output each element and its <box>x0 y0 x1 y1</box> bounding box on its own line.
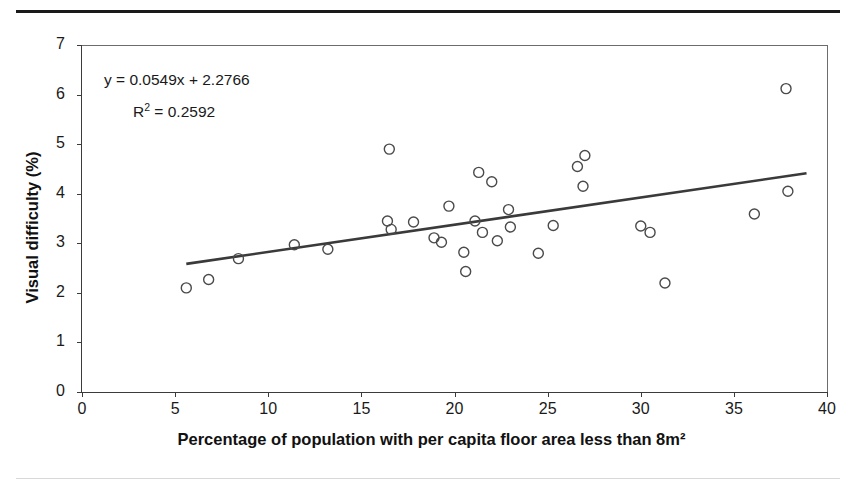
scatter-point <box>572 161 582 171</box>
figure-container: 01234567 0510152025303540 Visual difficu… <box>0 0 863 488</box>
scatter-point <box>645 227 655 237</box>
scatter-point <box>548 220 558 230</box>
scatter-point <box>636 221 646 231</box>
scatter-point <box>429 233 439 243</box>
scatter-point <box>474 167 484 177</box>
scatter-point <box>436 237 446 247</box>
scatter-point <box>459 247 469 257</box>
scatter-point <box>444 201 454 211</box>
scatter-point <box>204 274 214 284</box>
scatter-point <box>578 181 588 191</box>
scatter-point <box>323 244 333 254</box>
scatter-point <box>749 209 759 219</box>
scatter-plot-canvas <box>0 0 863 488</box>
trendline <box>186 173 806 264</box>
scatter-point <box>181 283 191 293</box>
scatter-point <box>505 222 515 232</box>
scatter-point <box>781 84 791 94</box>
scatter-point <box>487 177 497 187</box>
scatter-point <box>783 186 793 196</box>
scatter-point <box>492 236 502 246</box>
scatter-point <box>660 278 670 288</box>
scatter-point <box>504 205 514 215</box>
scatter-point <box>533 248 543 258</box>
scatter-point <box>580 151 590 161</box>
scatter-point <box>477 227 487 237</box>
scatter-point <box>461 267 471 277</box>
scatter-point <box>409 217 419 227</box>
scatter-point <box>384 144 394 154</box>
